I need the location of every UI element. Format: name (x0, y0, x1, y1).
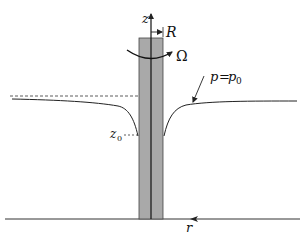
z-axis-label: z (141, 11, 149, 26)
free-surface-right (164, 101, 297, 136)
svg-text:0: 0 (236, 76, 242, 86)
svg-text:0: 0 (117, 134, 122, 143)
pressure-condition-label: p = p 0 (210, 69, 242, 86)
z0-label: z 0 (109, 127, 122, 143)
r-axis-label: r (186, 220, 193, 235)
pressure-pointer-arrow (193, 76, 204, 102)
omega-label: Ω (176, 48, 188, 64)
radius-label: R (165, 24, 177, 40)
rotating-rod-diagram: z R Ω p = p 0 z 0 r (0, 0, 303, 238)
svg-text:p: p (210, 69, 219, 84)
free-surface-left (12, 99, 138, 136)
svg-text:z: z (109, 127, 117, 141)
